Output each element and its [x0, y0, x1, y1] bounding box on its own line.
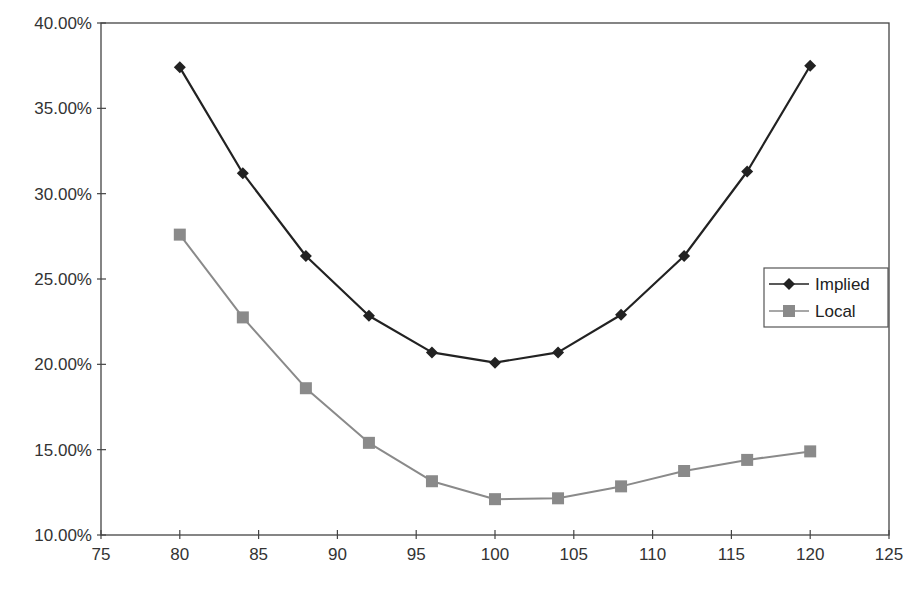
diamond-marker-icon: [552, 346, 564, 358]
x-tick-label: 110: [639, 545, 666, 564]
square-marker-icon: [237, 311, 249, 323]
diamond-marker-icon: [174, 61, 186, 73]
x-tick-label: 115: [718, 545, 745, 564]
x-tick-label: 125: [875, 545, 903, 564]
diamond-marker-icon: [804, 60, 816, 72]
x-tick-label: 90: [328, 545, 347, 564]
x-tick-label: 95: [407, 545, 426, 564]
legend-label-implied: Implied: [815, 275, 870, 294]
square-marker-icon: [678, 465, 690, 477]
square-marker-icon: [804, 445, 816, 457]
legend: Implied Local: [764, 268, 888, 327]
square-marker-icon: [426, 475, 438, 487]
legend-label-local: Local: [815, 302, 856, 321]
square-marker-icon: [552, 492, 564, 504]
x-tick-label: 100: [481, 545, 509, 564]
x-tick-label: 120: [796, 545, 824, 564]
volatility-chart: 10.00%15.00%20.00%25.00%30.00%35.00%40.0…: [0, 0, 920, 591]
x-tick-label: 75: [92, 545, 111, 564]
y-tick-label: 15.00%: [34, 441, 92, 460]
diamond-marker-icon: [489, 357, 501, 369]
y-tick-label: 10.00%: [34, 526, 92, 545]
diamond-marker-icon: [426, 346, 438, 358]
x-tick-label: 85: [249, 545, 268, 564]
y-tick-label: 40.00%: [34, 14, 92, 33]
square-marker-icon: [783, 305, 795, 317]
series-line: [180, 66, 810, 363]
y-tick-label: 30.00%: [34, 185, 92, 204]
series-layer: [174, 60, 816, 505]
square-marker-icon: [489, 493, 501, 505]
y-tick-label: 35.00%: [34, 99, 92, 118]
series-implied: [174, 60, 816, 369]
square-marker-icon: [363, 437, 375, 449]
x-tick-label: 105: [560, 545, 588, 564]
square-marker-icon: [741, 454, 753, 466]
y-tick-label: 25.00%: [34, 270, 92, 289]
square-marker-icon: [615, 480, 627, 492]
square-marker-icon: [174, 229, 186, 241]
y-axis: 10.00%15.00%20.00%25.00%30.00%35.00%40.0…: [34, 14, 106, 545]
square-marker-icon: [300, 382, 312, 394]
x-tick-label: 80: [170, 545, 189, 564]
y-tick-label: 20.00%: [34, 355, 92, 374]
